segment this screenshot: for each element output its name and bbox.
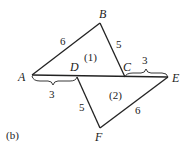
brace-ce	[125, 69, 168, 77]
length-bc: 5	[116, 38, 122, 50]
segment-ae	[32, 75, 168, 77]
segment-ab	[32, 23, 100, 75]
segment-fe	[100, 77, 168, 128]
length-ce: 3	[142, 54, 148, 66]
point-label-b: B	[99, 7, 107, 21]
triangle-label-2: (2)	[109, 89, 122, 102]
triangle-label-1: (1)	[84, 51, 97, 64]
point-label-a: A	[17, 70, 26, 84]
brace-ad	[32, 76, 77, 85]
geometry-diagram: A B C D E F 6 5 3 3 5 6 (1) (2) (b)	[0, 0, 188, 150]
length-ad: 3	[49, 88, 55, 100]
figure-label: (b)	[6, 129, 19, 142]
point-label-f: F	[94, 130, 103, 144]
point-label-c: C	[123, 60, 132, 74]
length-ab: 6	[60, 35, 66, 47]
point-label-e: E	[171, 71, 180, 85]
point-label-d: D	[69, 60, 79, 74]
length-df: 5	[79, 101, 85, 113]
length-fe: 6	[135, 104, 141, 116]
segment-bc	[100, 23, 125, 77]
